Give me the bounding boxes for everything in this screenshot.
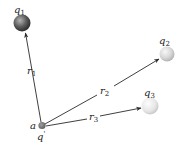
label-origin-charge: q' — [37, 130, 45, 142]
label-q2: q2 — [159, 35, 170, 48]
origin-charge-dot — [38, 122, 45, 129]
charge-vector-diagram: q1 q2 q3 r1 r2 r3 a q' — [0, 0, 183, 150]
charge-q3-sphere — [142, 98, 159, 115]
label-r1: r1 — [27, 65, 36, 78]
label-origin-point: a — [30, 120, 36, 131]
charge-q1-sphere — [14, 15, 31, 32]
label-q1: q1 — [14, 4, 25, 17]
label-r3: r3 — [89, 111, 98, 124]
label-q3: q3 — [144, 87, 155, 100]
charge-q2-sphere — [160, 47, 175, 62]
label-r2: r2 — [100, 85, 109, 98]
